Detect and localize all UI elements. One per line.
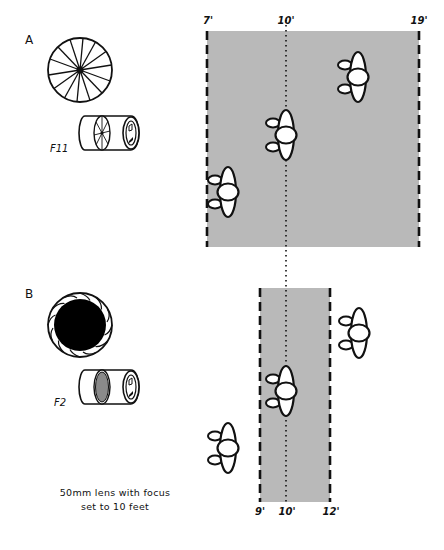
section-label-b: B (25, 287, 33, 301)
focus-label-a: 10' (278, 15, 295, 26)
section-label-a: A (25, 33, 33, 47)
lens-barrel-icon (79, 370, 139, 404)
diagram-canvas (0, 0, 444, 550)
dof-near-label-a: 7' (203, 15, 213, 26)
dof-near-label-b: 9' (255, 506, 265, 517)
focus-label-b: 10' (279, 506, 296, 517)
caption-line-2: set to 10 feet (40, 500, 190, 514)
aperture-closed-icon (48, 38, 112, 102)
fstop-label-b: F2 (54, 397, 66, 408)
lens-barrel-icon (79, 116, 139, 150)
fstop-label-a: F11 (50, 143, 68, 154)
person-icon (339, 308, 370, 358)
dof-panel-a (207, 31, 419, 247)
dof-far-label-a: 19' (411, 15, 428, 26)
diagram-caption: 50mm lens with focus set to 10 feet (40, 486, 190, 514)
dof-far-label-b: 12' (323, 506, 340, 517)
person-icon (208, 423, 239, 473)
caption-line-1: 50mm lens with focus (40, 486, 190, 500)
aperture-open-icon (48, 293, 112, 357)
depth-of-field-diagram: A B F11 F2 7' 10' 19' 9' 10' 12' 50mm le… (0, 0, 444, 550)
